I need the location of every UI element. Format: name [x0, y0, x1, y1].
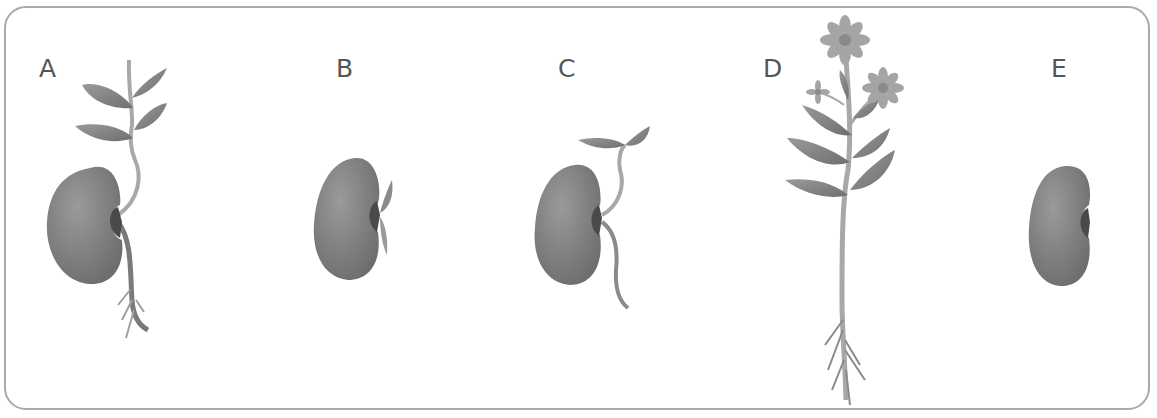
- seed-shoot-illustration: [300, 0, 420, 418]
- stage-d-flowering-plant: [770, 0, 930, 418]
- stage-c-sprout: [520, 0, 670, 418]
- flower-top: [820, 15, 870, 65]
- stage-e-seed: [1020, 0, 1120, 418]
- stage-b-emerging-shoot: [300, 0, 420, 418]
- stage-a-seedling: [30, 0, 230, 418]
- sprout-illustration: [520, 0, 670, 418]
- seedling-illustration: [30, 0, 230, 418]
- flowering-plant-illustration: [770, 0, 930, 418]
- flower-small: [806, 80, 830, 104]
- seed-illustration: [1020, 0, 1120, 418]
